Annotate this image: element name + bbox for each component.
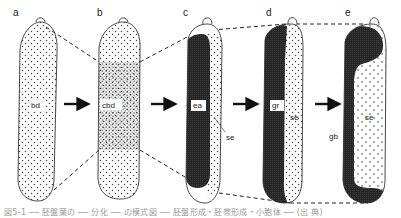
embryo-e: se gb — [329, 18, 386, 205]
region-label-se-e: se — [365, 113, 374, 122]
region-label-ea: ea — [193, 101, 202, 110]
panel-letter-b: b — [97, 7, 103, 18]
panel-letter-a: a — [13, 7, 19, 18]
panel-letter-e: e — [345, 7, 351, 18]
embryo-b: cbd — [98, 18, 140, 199]
region-label-gr: gr — [272, 101, 279, 110]
embryo-d: gr se — [262, 18, 303, 203]
panel-letter-d: d — [266, 7, 272, 18]
region-label-cbd: cbd — [102, 101, 115, 110]
region-label-se-d: se — [290, 113, 299, 122]
region-label-se-c: se — [226, 133, 235, 142]
embryo-a: bd — [18, 18, 57, 201]
germ-band-formation-diagram: a b c d e bd cbd ea — [0, 0, 401, 218]
figure-caption: 図5-1 ── 胚盤葉の ── 分化 ── の模式図 ── 胚盤形成・胚帯形成・… — [4, 208, 399, 218]
region-label-gb: gb — [329, 132, 338, 141]
region-label-bd: bd — [31, 101, 40, 110]
panel-letter-c: c — [183, 7, 188, 18]
embryo-c: ea se — [186, 18, 235, 203]
